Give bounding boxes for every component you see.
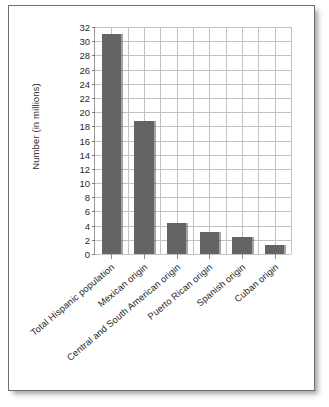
y-tick-mark — [92, 141, 95, 142]
gridline-vertical — [193, 27, 194, 254]
gridline-vertical — [128, 27, 129, 254]
bar-6 — [265, 245, 285, 254]
y-tick-mark — [92, 169, 95, 170]
gridline-vertical — [226, 27, 227, 254]
plot-area: 02468101214161820222426283032 — [94, 27, 291, 255]
y-tick-label: 6 — [85, 206, 90, 217]
y-tick-label: 10 — [79, 178, 90, 189]
y-tick-mark — [92, 197, 95, 198]
y-tick-mark — [92, 211, 95, 212]
y-tick-mark — [92, 55, 95, 56]
gridline-vertical — [275, 27, 276, 254]
y-tick-mark — [92, 240, 95, 241]
y-tick-label: 4 — [85, 220, 90, 231]
y-tick-mark — [92, 112, 95, 113]
x-tick-mark — [209, 254, 210, 259]
gridline-vertical — [291, 27, 292, 254]
gridline-vertical — [177, 27, 178, 254]
y-tick-label: 18 — [79, 121, 90, 132]
gridline-vertical — [209, 27, 210, 254]
x-tick-mark — [242, 254, 243, 259]
y-tick-label: 30 — [79, 36, 90, 47]
y-axis-title: Number (in millions) — [30, 67, 41, 187]
y-tick-label: 28 — [79, 50, 90, 61]
y-tick-label: 16 — [79, 135, 90, 146]
y-tick-mark — [92, 226, 95, 227]
y-tick-label: 12 — [79, 163, 90, 174]
bar-chart-figure: Number (in millions) 0246810121416182022… — [9, 6, 316, 392]
bar-1 — [102, 34, 122, 254]
y-tick-mark — [92, 183, 95, 184]
y-tick-mark — [92, 254, 95, 255]
bar-5 — [232, 237, 252, 254]
y-tick-label: 26 — [79, 64, 90, 75]
x-tick-mark — [111, 254, 112, 259]
y-tick-mark — [92, 70, 95, 71]
y-tick-mark — [92, 98, 95, 99]
x-tick-mark — [275, 254, 276, 259]
gridline-vertical — [160, 27, 161, 254]
y-tick-label: 24 — [79, 78, 90, 89]
y-tick-label: 20 — [79, 107, 90, 118]
y-tick-mark — [92, 155, 95, 156]
bar-4 — [200, 232, 220, 254]
gridline-vertical — [258, 27, 259, 254]
y-tick-label: 14 — [79, 149, 90, 160]
y-tick-label: 8 — [85, 192, 90, 203]
scanned-page-sheet: Number (in millions) 0246810121416182022… — [8, 5, 315, 391]
y-tick-label: 22 — [79, 92, 90, 103]
gridline-horizontal — [95, 254, 291, 255]
y-tick-label: 32 — [79, 22, 90, 33]
y-tick-label: 2 — [85, 234, 90, 245]
x-axis-labels: Total Hispanic populationMexican originC… — [9, 261, 316, 386]
y-tick-mark — [92, 84, 95, 85]
bar-2 — [134, 121, 154, 254]
y-tick-mark — [92, 41, 95, 42]
x-tick-mark — [144, 254, 145, 259]
y-tick-label: 0 — [85, 249, 90, 260]
y-tick-mark — [92, 126, 95, 127]
gridline-vertical — [242, 27, 243, 254]
bar-3 — [167, 223, 187, 254]
x-tick-mark — [177, 254, 178, 259]
y-tick-mark — [92, 27, 95, 28]
